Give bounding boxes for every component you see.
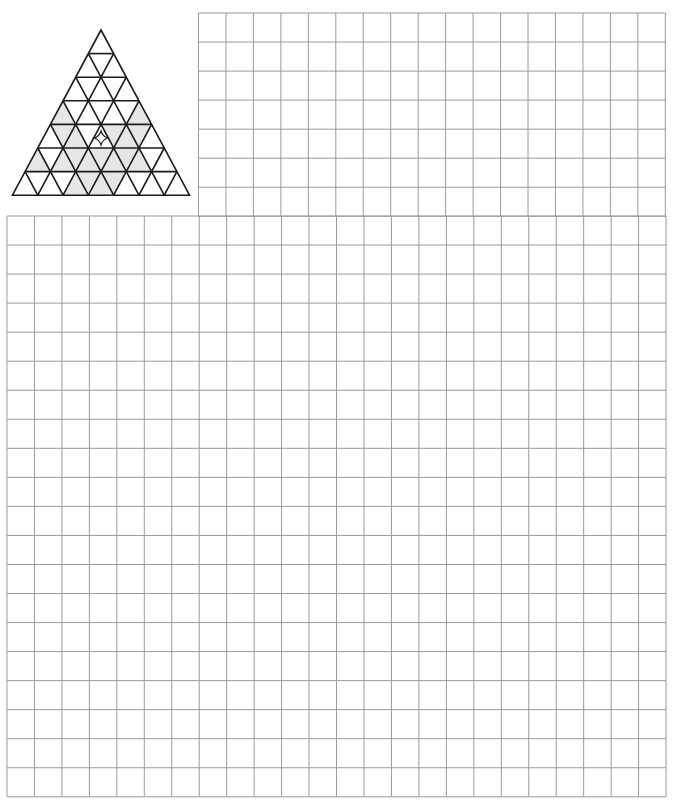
triangular-grid-figure: [0, 0, 675, 800]
triangle-cell: [88, 30, 113, 54]
worksheet-page: [0, 0, 675, 800]
